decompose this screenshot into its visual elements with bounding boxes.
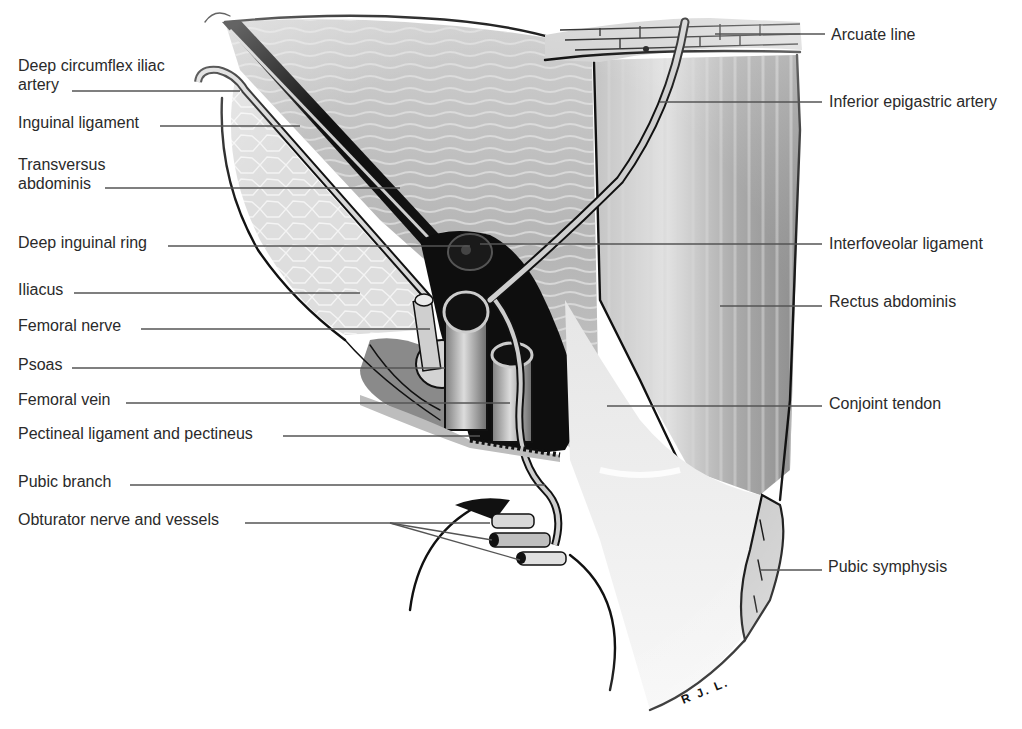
label-conjoint-tendon: Conjoint tendon bbox=[829, 394, 941, 413]
label-rectus-abdominis: Rectus abdominis bbox=[829, 292, 956, 311]
label-inguinal-ligament: Inguinal ligament bbox=[18, 113, 139, 132]
label-femoral-nerve: Femoral nerve bbox=[18, 316, 121, 335]
label-line-2: abdominis bbox=[18, 174, 105, 193]
label-arcuate-line: Arcuate line bbox=[831, 25, 916, 44]
label-psoas: Psoas bbox=[18, 355, 62, 374]
label-deep-inguinal-ring: Deep inguinal ring bbox=[18, 233, 147, 252]
label-pectineal-ligament: Pectineal ligament and pectineus bbox=[18, 424, 253, 443]
label-pubic-symphysis: Pubic symphysis bbox=[828, 557, 947, 576]
label-line-1: Deep circumflex iliac bbox=[18, 56, 165, 75]
label-iliacus: Iliacus bbox=[18, 280, 63, 299]
label-deep-circumflex-iliac-artery: Deep circumflex iliac artery bbox=[18, 56, 165, 94]
label-interfoveolar-ligament: Interfoveolar ligament bbox=[829, 234, 983, 253]
label-inferior-epigastric-artery: Inferior epigastric artery bbox=[829, 92, 997, 111]
label-obturator-nerve-vessels: Obturator nerve and vessels bbox=[18, 510, 219, 529]
label-line-2: artery bbox=[18, 75, 165, 94]
label-transversus-abdominis: Transversus abdominis bbox=[18, 155, 105, 193]
label-line-1: Transversus bbox=[18, 155, 105, 174]
label-femoral-vein: Femoral vein bbox=[18, 390, 110, 409]
label-pubic-branch: Pubic branch bbox=[18, 472, 111, 491]
